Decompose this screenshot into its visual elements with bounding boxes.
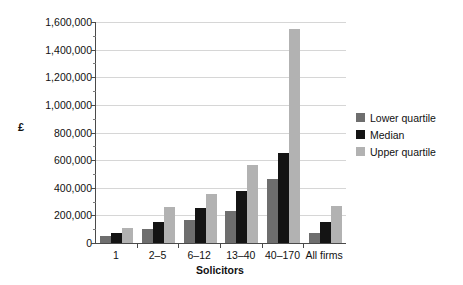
x-axis-tick-mark bbox=[220, 243, 221, 248]
y-axis-tick-label: 1,000,000 bbox=[30, 100, 92, 111]
bar-group bbox=[179, 22, 221, 243]
x-axis-tick-label: All firms bbox=[303, 249, 345, 265]
bar-chart: £ 0200,000400,000600,000800,0001,000,000… bbox=[0, 0, 463, 285]
legend-swatch bbox=[356, 130, 365, 139]
bar bbox=[184, 220, 195, 243]
y-axis-tick-label: 400,000 bbox=[30, 183, 92, 194]
x-axis-tick-labels: 12–56–1213–4040–170All firms bbox=[95, 249, 345, 265]
bar bbox=[331, 206, 342, 243]
x-axis-tick-mark bbox=[262, 243, 263, 248]
legend: Lower quartileMedianUpper quartile bbox=[356, 110, 461, 161]
bar bbox=[247, 165, 258, 243]
bar bbox=[309, 233, 320, 243]
y-axis-tick-label: 1,200,000 bbox=[30, 72, 92, 83]
bar bbox=[164, 207, 175, 243]
y-axis-tick-label: 1,400,000 bbox=[30, 44, 92, 55]
x-axis-tick-label: 2–5 bbox=[137, 249, 179, 265]
bar-group bbox=[138, 22, 180, 243]
bar bbox=[100, 236, 111, 243]
y-axis-tick-labels: 0200,000400,000600,000800,0001,000,0001,… bbox=[30, 0, 92, 285]
bar bbox=[278, 153, 289, 243]
y-axis-title: £ bbox=[18, 121, 24, 133]
legend-item: Median bbox=[356, 127, 461, 142]
x-axis-title: Solicitors bbox=[95, 264, 345, 276]
bar bbox=[153, 222, 164, 243]
bar bbox=[122, 228, 133, 243]
bar bbox=[320, 222, 331, 243]
bar bbox=[111, 233, 122, 243]
bar-group bbox=[304, 22, 346, 243]
legend-item: Upper quartile bbox=[356, 144, 461, 159]
bar-group bbox=[221, 22, 263, 243]
bar bbox=[236, 191, 247, 243]
bar bbox=[267, 179, 278, 243]
plot-area bbox=[95, 22, 346, 244]
legend-item: Lower quartile bbox=[356, 110, 461, 125]
x-axis-tick-label: 40–170 bbox=[262, 249, 304, 265]
x-axis-tick-mark bbox=[137, 243, 138, 248]
legend-label: Median bbox=[370, 129, 404, 141]
x-axis-tick-label: 13–40 bbox=[220, 249, 262, 265]
bar-group bbox=[96, 22, 138, 243]
bar bbox=[206, 194, 217, 243]
bar bbox=[142, 229, 153, 243]
x-axis-tick-label: 1 bbox=[95, 249, 137, 265]
x-axis-tick-mark bbox=[303, 243, 304, 248]
legend-swatch bbox=[356, 147, 365, 156]
bar bbox=[289, 29, 300, 243]
y-axis-tick-label: 800,000 bbox=[30, 127, 92, 138]
bar bbox=[225, 211, 236, 243]
bar-groups bbox=[96, 22, 346, 243]
y-axis-tick-label: 200,000 bbox=[30, 210, 92, 221]
x-axis-tick-mark bbox=[178, 243, 179, 248]
legend-label: Upper quartile bbox=[370, 146, 436, 158]
y-axis-tick-label: 1,600,000 bbox=[30, 17, 92, 28]
bar-group bbox=[263, 22, 305, 243]
bar bbox=[195, 208, 206, 243]
x-axis-tick-label: 6–12 bbox=[178, 249, 220, 265]
y-axis-tick-label: 600,000 bbox=[30, 155, 92, 166]
legend-label: Lower quartile bbox=[370, 112, 436, 124]
y-axis-tick-label: 0 bbox=[30, 238, 92, 249]
legend-swatch bbox=[356, 113, 365, 122]
